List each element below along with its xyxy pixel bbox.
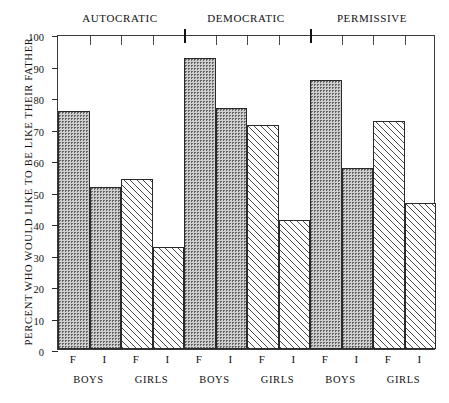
bar xyxy=(405,203,437,349)
bar xyxy=(90,187,122,349)
top-axis-tick xyxy=(279,36,280,45)
top-axis-tick xyxy=(121,36,122,45)
y-axis-tick-label: 80 xyxy=(34,95,45,106)
bar xyxy=(58,111,90,349)
x-axis-tick-label: I xyxy=(341,353,373,365)
bar xyxy=(216,108,248,349)
y-axis-tick-label: 70 xyxy=(34,126,45,137)
y-axis-tick-label: 100 xyxy=(28,32,44,43)
bar xyxy=(279,220,311,349)
y-axis-tick: 80 xyxy=(52,99,58,100)
x-axis-tick-label: I xyxy=(404,353,436,365)
x-axis-pair-label: GIRLS xyxy=(372,374,435,385)
x-axis-tick-label: I xyxy=(152,353,184,365)
top-axis-tick xyxy=(153,36,154,45)
group-divider-tick xyxy=(310,29,312,43)
group-heading: PERMISSIVE xyxy=(309,12,435,24)
x-axis-pair-label: BOYS xyxy=(183,374,246,385)
y-axis-tick: 0 xyxy=(52,351,58,352)
x-axis-pair-label: BOYS xyxy=(309,374,372,385)
top-axis-tick xyxy=(405,36,406,45)
x-axis-pair-label: BOYS xyxy=(57,374,120,385)
group-heading: AUTOCRATIC xyxy=(57,12,183,24)
x-axis-tick-label: I xyxy=(278,353,310,365)
top-axis-tick xyxy=(373,36,374,45)
y-axis-tick-label: 10 xyxy=(34,315,45,326)
x-axis-tick-label: F xyxy=(246,353,278,365)
y-axis-tick: 90 xyxy=(52,68,58,69)
bar-chart: PERCENT WHO WOULD LIKE TO BE LIKE THEIR … xyxy=(0,0,449,403)
x-axis-tick-label: F xyxy=(57,353,89,365)
bar xyxy=(373,121,405,349)
top-axis-tick xyxy=(216,36,217,45)
x-axis-tick-label: F xyxy=(183,353,215,365)
plot-area: 0102030405060708090100 xyxy=(57,35,435,350)
bar xyxy=(121,179,153,349)
x-axis-tick-label: F xyxy=(372,353,404,365)
y-axis-tick-label: 30 xyxy=(34,252,45,263)
x-axis-tick-label: I xyxy=(215,353,247,365)
x-axis-tick-label: F xyxy=(309,353,341,365)
bar xyxy=(342,168,374,349)
x-axis-tick-label: F xyxy=(120,353,152,365)
x-axis-pair-label: GIRLS xyxy=(246,374,309,385)
bar xyxy=(247,125,279,349)
x-axis-tick-label: I xyxy=(89,353,121,365)
y-axis-tick-label: 90 xyxy=(34,63,45,74)
y-axis-tick-label: 40 xyxy=(34,221,45,232)
y-axis-tick: 100 xyxy=(52,36,58,37)
group-divider-tick xyxy=(184,29,186,43)
bar xyxy=(310,80,342,349)
bar xyxy=(184,58,216,349)
bar xyxy=(153,247,185,349)
y-axis-tick-label: 50 xyxy=(34,189,45,200)
top-axis-tick xyxy=(247,36,248,45)
y-axis-tick-label: 0 xyxy=(39,347,44,358)
y-axis-tick-label: 20 xyxy=(34,284,45,295)
top-axis-tick xyxy=(342,36,343,45)
y-axis-title: PERCENT WHO WOULD LIKE TO BE LIKE THEIR … xyxy=(23,37,34,347)
group-heading: DEMOCRATIC xyxy=(183,12,309,24)
x-axis-pair-label: GIRLS xyxy=(120,374,183,385)
top-axis-tick xyxy=(90,36,91,45)
y-axis-tick-label: 60 xyxy=(34,158,45,169)
